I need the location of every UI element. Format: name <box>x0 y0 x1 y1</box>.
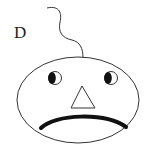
left-eye <box>48 72 61 85</box>
sad-face-diagram <box>0 0 155 151</box>
hair-strand <box>47 7 83 58</box>
right-eye <box>104 72 117 85</box>
